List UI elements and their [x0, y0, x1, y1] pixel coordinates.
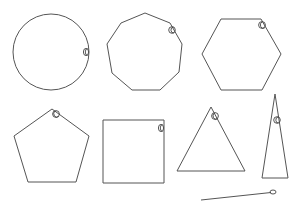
tall-triangle-shape[interactable] — [262, 94, 288, 178]
triangle-outline — [177, 107, 245, 171]
hexagon-shape[interactable] — [202, 19, 281, 90]
triangle-shape[interactable] — [177, 107, 245, 171]
tall-triangle-outline — [262, 94, 288, 178]
hexagon-outline — [202, 19, 281, 90]
square-shape[interactable] — [103, 120, 164, 183]
pentagon-outline — [14, 109, 89, 182]
square-outline — [103, 120, 164, 183]
circle-shape[interactable] — [13, 14, 89, 90]
square-marker-arc — [160, 125, 162, 132]
tall-triangle-marker-arc — [276, 117, 279, 123]
circle-marker-arc — [85, 49, 87, 56]
nonagon-shape[interactable] — [107, 13, 182, 90]
line-endpoint-marker-icon[interactable] — [270, 190, 276, 194]
line-segment — [201, 193, 271, 201]
nonagon-outline — [107, 13, 182, 90]
circle-outline — [13, 14, 89, 90]
shapes-canvas — [0, 0, 298, 212]
line-shape[interactable] — [201, 190, 276, 200]
pentagon-shape[interactable] — [14, 109, 89, 182]
